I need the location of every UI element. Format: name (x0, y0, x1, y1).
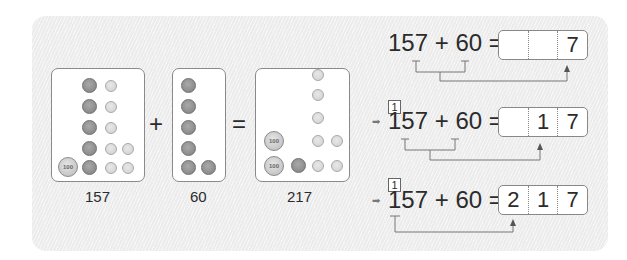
connector-lines (0, 0, 627, 260)
